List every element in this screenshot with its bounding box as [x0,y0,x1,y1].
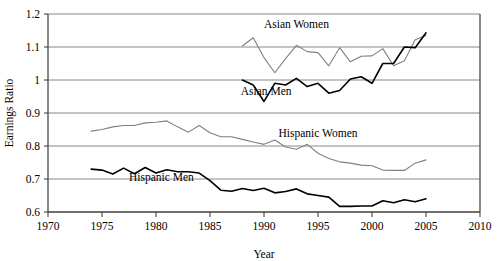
gridlines [48,14,480,212]
series-label-asian-men: Asian Men [241,85,292,97]
y-tick-label: 1.1 [26,41,41,53]
x-tick-label: 1980 [145,220,168,232]
y-tick-label: 1.2 [26,8,41,20]
tick-labels-layer: 0.60.70.80.911.11.2197019751980198519901… [26,8,492,232]
chart-plot-area: 0.60.70.80.911.11.2197019751980198519901… [0,0,502,261]
y-axis-title: Earnings Ratio [3,78,16,147]
x-tick-label: 2010 [469,220,492,232]
x-tick-label: 1990 [253,220,276,232]
x-tick-label: 1970 [37,220,60,232]
series-label-hispanic-women: Hispanic Women [278,127,357,140]
series-label-asian-women: Asian Women [264,18,329,30]
y-tick-label: 0.8 [26,140,41,152]
y-tick-label: 0.6 [26,206,41,218]
series-line-asian-women [242,35,426,72]
series-annotations-layer: Asian WomenAsian MenHispanic WomenHispan… [129,18,358,184]
y-tick-label: 1 [34,74,40,86]
x-tick-label: 1975 [91,220,114,232]
earnings-ratio-line-chart: 0.60.70.80.911.11.2197019751980198519901… [0,0,502,261]
x-tick-label: 2005 [415,220,438,232]
x-tick-label: 1985 [199,220,222,232]
y-tick-label: 0.9 [26,107,41,119]
x-axis-title: Year [253,248,274,260]
x-tick-label: 2000 [361,220,384,232]
axes-layer [44,14,480,217]
y-tick-label: 0.7 [26,173,41,185]
x-tick-label: 1995 [307,220,330,232]
series-label-hispanic-men: Hispanic Men [129,171,194,184]
